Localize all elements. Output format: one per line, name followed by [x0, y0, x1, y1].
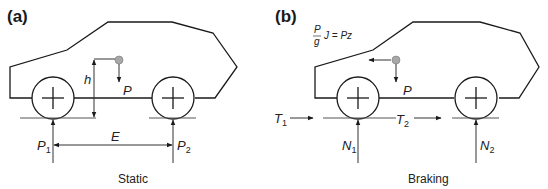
- center-of-gravity-dot: [115, 56, 123, 64]
- front-normal-label: N1: [342, 138, 356, 155]
- height-label: h: [84, 72, 91, 87]
- panel-b-label: (b): [275, 7, 297, 26]
- panel-a-static: (a) h P P1 P2 E Stati: [7, 7, 237, 186]
- vehicle-braking-diagram: (a) h P P1 P2 E Stati: [0, 0, 548, 189]
- weight-label: P: [403, 83, 412, 98]
- svg-text:J = Pz: J = Pz: [323, 30, 352, 41]
- rear-brake-force-label: T2: [396, 112, 409, 129]
- front-wheel: [337, 77, 379, 119]
- weight-label: P: [123, 83, 132, 98]
- wheelbase-label: E: [111, 129, 120, 144]
- rear-wheel: [455, 77, 497, 119]
- panel-a-label: (a): [7, 7, 28, 26]
- front-reaction-label: P1: [37, 138, 51, 155]
- rear-reaction-label: P2: [177, 138, 191, 155]
- front-wheel: [32, 77, 74, 119]
- rear-normal-label: N2: [480, 138, 494, 155]
- panel-a-caption: Static: [118, 172, 148, 186]
- front-brake-force-label: T1: [274, 111, 287, 128]
- svg-text:P: P: [314, 24, 321, 35]
- panel-b-caption: Braking: [408, 172, 449, 186]
- inertia-force-formula: P g J = Pz: [313, 24, 352, 47]
- svg-text:g: g: [314, 36, 320, 47]
- panel-b-braking: (b) P g J = Pz T1 T2: [274, 7, 539, 186]
- rear-wheel: [152, 77, 194, 119]
- center-of-gravity-dot: [392, 56, 400, 64]
